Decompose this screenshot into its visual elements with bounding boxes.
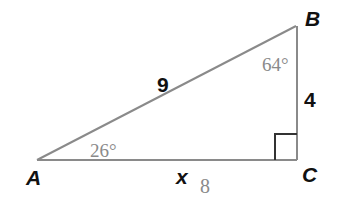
side-label-ac: x — [176, 166, 188, 187]
vertex-label-a: A — [26, 167, 41, 188]
triangle-figure — [0, 0, 342, 204]
vertex-label-b: B — [305, 8, 320, 29]
angle-label-b: 64° — [262, 55, 289, 74]
vertex-label-c: C — [302, 164, 317, 185]
side-label-bc: 4 — [304, 89, 316, 110]
right-angle-marker-icon — [275, 134, 297, 160]
side-ac-answer: 8 — [200, 176, 210, 196]
triangle-diagram: B C A 9 4 x 8 64° 26° — [0, 0, 342, 204]
side-label-ab: 9 — [157, 74, 169, 95]
angle-label-a: 26° — [90, 141, 117, 160]
